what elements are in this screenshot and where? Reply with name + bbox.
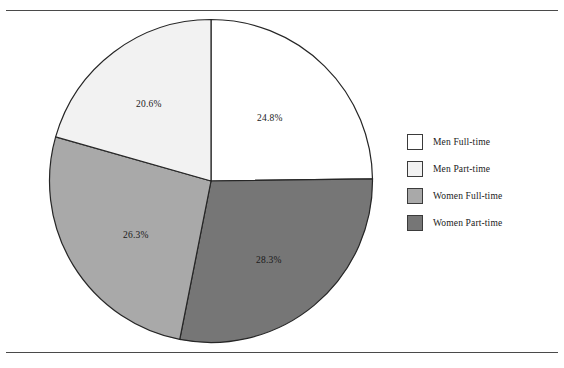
- legend-item-men-full-time[interactable]: Men Full-time: [407, 128, 557, 155]
- legend-swatch-men-part-time: [407, 161, 423, 177]
- bottom-divider-rule: [6, 352, 558, 353]
- legend-item-women-full-time[interactable]: Women Full-time: [407, 182, 557, 209]
- slice-label-men-part-time: 20.6%: [136, 99, 162, 109]
- pie-chart-figure: 24.8% 28.3% 26.3% 20.6% Men Full-timeMen…: [0, 0, 564, 368]
- pie-slice-men-full-time: [211, 20, 372, 182]
- pie-chart-area: 24.8% 28.3% 26.3% 20.6%: [48, 18, 374, 344]
- slice-label-men-full-time: 24.8%: [257, 113, 283, 123]
- top-divider-rule: [6, 10, 558, 11]
- slice-label-women-part-time: 28.3%: [256, 255, 282, 265]
- legend: Men Full-timeMen Part-timeWomen Full-tim…: [407, 128, 557, 236]
- legend-item-men-part-time[interactable]: Men Part-time: [407, 155, 557, 182]
- legend-swatch-women-part-time: [407, 215, 423, 231]
- legend-label-women-part-time: Women Part-time: [433, 218, 502, 228]
- legend-label-men-part-time: Men Part-time: [433, 164, 490, 174]
- legend-swatch-women-full-time: [407, 188, 423, 204]
- pie-chart-svg: [48, 18, 374, 344]
- legend-item-women-part-time[interactable]: Women Part-time: [407, 209, 557, 236]
- slice-label-women-full-time: 26.3%: [123, 230, 149, 240]
- legend-swatch-men-full-time: [407, 134, 423, 150]
- legend-label-women-full-time: Women Full-time: [433, 191, 502, 201]
- legend-label-men-full-time: Men Full-time: [433, 137, 490, 147]
